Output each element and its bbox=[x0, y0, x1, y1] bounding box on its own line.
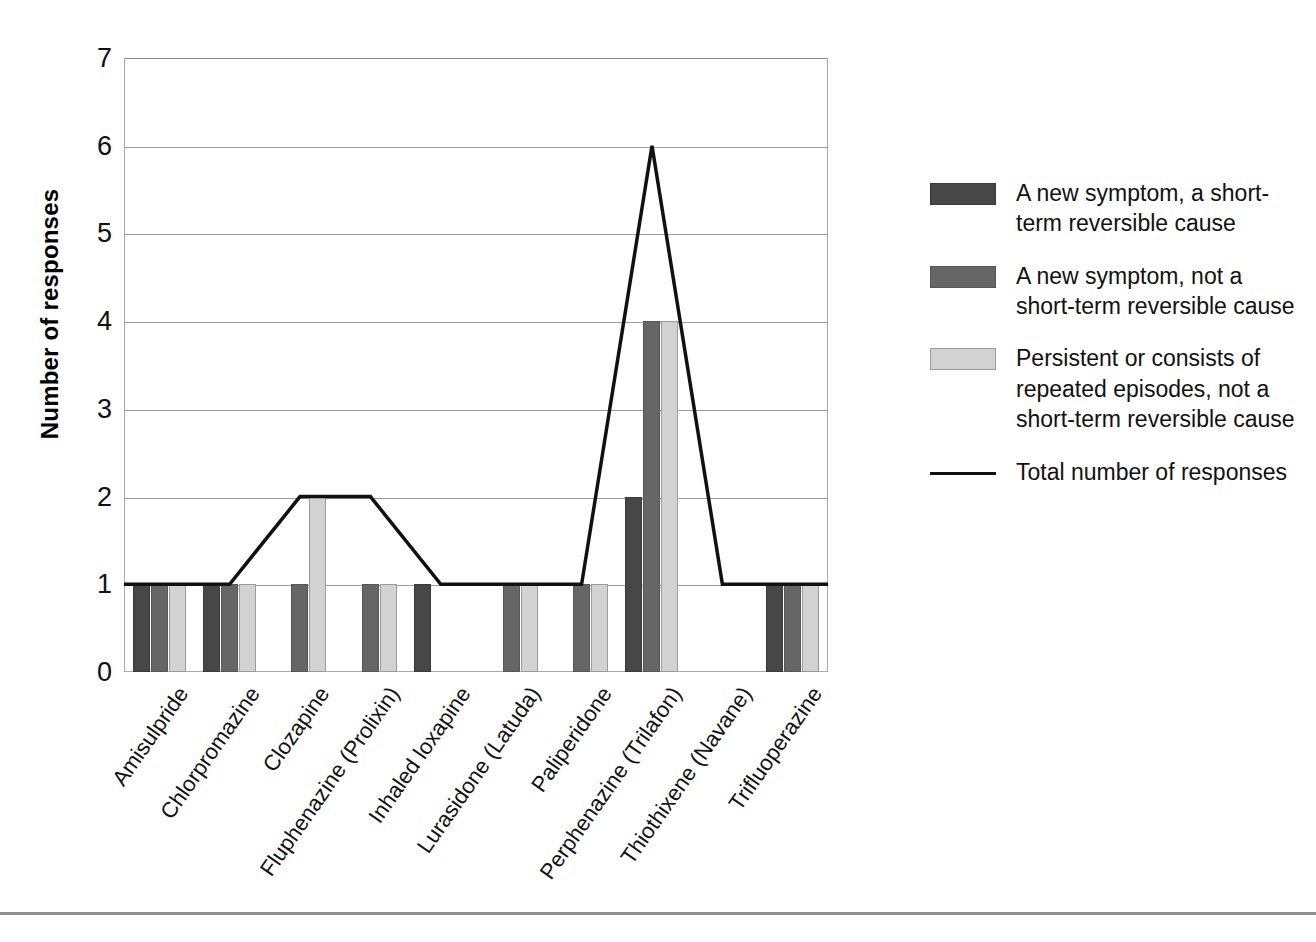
bottom-divider bbox=[0, 912, 1316, 915]
legend-item-label: A new symptom, a short-term reversible c… bbox=[1016, 178, 1300, 239]
gridline-5 bbox=[125, 234, 827, 235]
gridline-3 bbox=[125, 410, 827, 411]
x-tick-label: Fluphenazine (Prolixin) bbox=[255, 682, 405, 881]
gridline-1 bbox=[125, 585, 827, 586]
legend-item[interactable]: A new symptom, a short-term reversible c… bbox=[930, 178, 1300, 239]
chart-figure: Number of responses 01234567 Amisulpride… bbox=[0, 0, 1316, 942]
legend-item[interactable]: A new symptom, not a short-term reversib… bbox=[930, 261, 1300, 322]
y-axis-tick-labels: 01234567 bbox=[62, 58, 112, 672]
gridline-6 bbox=[125, 147, 827, 148]
y-tick-label-0: 0 bbox=[72, 659, 112, 686]
legend-item[interactable]: Total number of responses bbox=[930, 457, 1300, 487]
y-tick-label-4: 4 bbox=[72, 308, 112, 335]
y-tick-label-7: 7 bbox=[72, 45, 112, 72]
x-tick-label: Thiothixene (Navane) bbox=[616, 682, 758, 869]
legend-color-swatch-icon bbox=[930, 348, 996, 370]
y-tick-label-6: 6 bbox=[72, 132, 112, 159]
x-axis-tick-labels: AmisulprideChlorpromazineClozapineFluphe… bbox=[124, 672, 828, 922]
plot-area bbox=[124, 58, 828, 672]
legend-item-label: A new symptom, not a short-term reversib… bbox=[1016, 261, 1300, 322]
y-tick-label-1: 1 bbox=[72, 571, 112, 598]
legend-item-label: Persistent or consists of repeated episo… bbox=[1016, 343, 1300, 434]
chart-legend: A new symptom, a short-term reversible c… bbox=[930, 178, 1300, 509]
gridline-2 bbox=[125, 498, 827, 499]
gridline-4 bbox=[125, 322, 827, 323]
legend-line-swatch-icon bbox=[930, 462, 996, 484]
x-tick-label: Clozapine bbox=[258, 682, 335, 777]
y-axis-title: Number of responses bbox=[36, 154, 64, 474]
y-tick-label-3: 3 bbox=[72, 395, 112, 422]
legend-color-swatch-icon bbox=[930, 266, 996, 288]
y-tick-label-2: 2 bbox=[72, 483, 112, 510]
legend-item[interactable]: Persistent or consists of repeated episo… bbox=[930, 343, 1300, 434]
legend-color-swatch-icon bbox=[930, 183, 996, 205]
x-tick-label: Lurasidone (Latuda) bbox=[412, 682, 546, 858]
legend-item-label: Total number of responses bbox=[1016, 457, 1287, 487]
y-tick-label-5: 5 bbox=[72, 220, 112, 247]
